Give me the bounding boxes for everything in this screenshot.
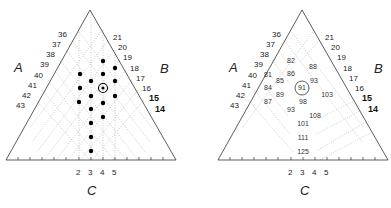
tick-label: 3 (88, 168, 93, 177)
tick-label: 2 (288, 168, 293, 177)
axis-label-c: C (300, 183, 310, 198)
tick-label: 42 (236, 91, 245, 100)
response-value: 84 (264, 84, 272, 91)
tick-label: 41 (28, 81, 37, 90)
left-c-ticks: 2 3 4 5 (76, 168, 117, 177)
right-b-ticks: 21 20 19 18 17 16 15 14 (325, 33, 378, 114)
tick-label: 19 (123, 53, 132, 62)
response-value: 101 (297, 120, 309, 127)
response-value: 87 (264, 98, 272, 105)
tick-label: 17 (349, 74, 358, 83)
tick-label: 18 (130, 64, 139, 73)
tick-label: 39 (40, 60, 49, 69)
tick-label: 20 (118, 43, 127, 52)
tick-label: 41 (242, 81, 251, 90)
tick-label: 43 (16, 101, 25, 110)
axis-label-a: A (13, 60, 23, 75)
tick-label: 3 (300, 168, 305, 177)
tick-label: 43 (230, 101, 239, 110)
response-value: 93 (287, 106, 295, 113)
tick-label: 5 (324, 168, 329, 177)
tick-label: 36 (58, 30, 67, 39)
tick-label: 36 (272, 30, 281, 39)
tick-label: 2 (76, 168, 81, 177)
tick-label: 38 (46, 50, 55, 59)
tick-label: 42 (22, 91, 31, 100)
tick-label: 16 (355, 84, 364, 93)
response-values: 82 88 81 86 85 91 93 84 89 103 87 98 93 … (264, 57, 333, 155)
response-value: 125 (297, 148, 309, 155)
response-value: 98 (299, 98, 307, 105)
tick-label: 15 (149, 93, 159, 103)
left-a-ticks: 36 37 38 39 40 41 42 43 (16, 30, 67, 110)
tick-label: 20 (331, 43, 340, 52)
tick-label: 38 (260, 50, 269, 59)
tick-label: 4 (312, 168, 317, 177)
left-b-ticks: 21 20 19 18 17 16 15 14 (113, 33, 165, 114)
axis-label-c: C (87, 183, 97, 198)
tick-label: 40 (34, 71, 43, 80)
tick-label: 40 (248, 71, 257, 80)
tick-label: 37 (52, 40, 61, 49)
tick-label: 19 (337, 53, 346, 62)
response-value: 85 (276, 77, 284, 84)
tick-label: 15 (362, 93, 372, 103)
tick-label: 21 (325, 33, 334, 42)
right-ternary-plot: 36 37 38 39 40 41 42 43 21 20 19 18 17 1… (218, 10, 388, 198)
response-value: 103 (321, 91, 333, 98)
tick-label: 16 (142, 84, 151, 93)
ternary-diagrams: 36 37 38 39 40 41 42 43 21 20 19 18 17 1… (0, 0, 391, 208)
response-value: 108 (309, 112, 321, 119)
response-value: 111 (298, 134, 309, 141)
response-value: 81 (264, 71, 272, 78)
response-value: 89 (276, 91, 284, 98)
left-ternary-plot: 36 37 38 39 40 41 42 43 21 20 19 18 17 1… (6, 10, 176, 198)
tick-label: 18 (343, 64, 352, 73)
axis-label-b: B (160, 61, 169, 76)
tick-label: 21 (113, 33, 122, 42)
axis-label-a: A (228, 60, 238, 75)
tick-label: 14 (368, 104, 378, 114)
response-value: 93 (310, 77, 318, 84)
response-value-center: 91 (298, 84, 306, 91)
axis-label-b: B (374, 61, 383, 76)
tick-label: 5 (112, 168, 117, 177)
tick-label: 17 (136, 74, 145, 83)
response-value: 86 (287, 70, 295, 77)
right-c-ticks: 2 3 4 5 (288, 168, 329, 177)
tick-label: 39 (254, 60, 263, 69)
response-value: 82 (287, 57, 295, 64)
tick-label: 14 (155, 104, 165, 114)
response-value: 88 (309, 63, 317, 70)
tick-label: 37 (266, 40, 275, 49)
tick-label: 4 (100, 168, 105, 177)
